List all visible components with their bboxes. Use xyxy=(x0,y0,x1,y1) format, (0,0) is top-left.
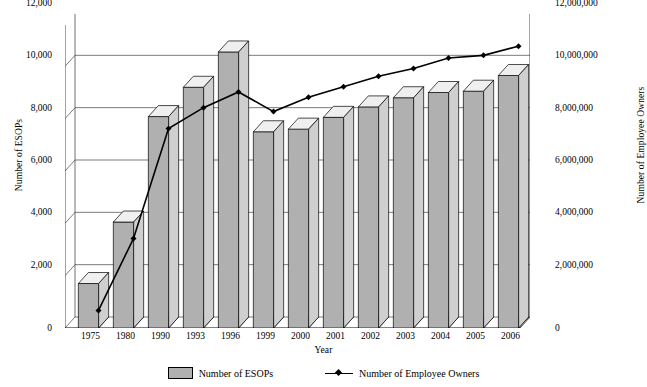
x-tick-2006: 2006 xyxy=(501,331,520,341)
x-tick-1999: 1999 xyxy=(256,331,275,341)
bar-1996 xyxy=(218,41,248,328)
bar-1999 xyxy=(253,121,283,328)
bar-2000 xyxy=(288,118,318,328)
bar-2005 xyxy=(463,80,493,328)
legend-item-line: Number of Employee Owners xyxy=(325,368,479,379)
plot-area xyxy=(65,14,530,328)
x-tick-2002: 2002 xyxy=(361,331,380,341)
legend-label-bars: Number of ESOPs xyxy=(199,368,273,379)
chart-legend: Number of ESOPs Number of Employee Owner… xyxy=(0,362,647,384)
bar-2006 xyxy=(498,64,528,328)
x-tick-1990: 1990 xyxy=(151,331,170,341)
bar-1990 xyxy=(148,106,178,328)
x-tick-2003: 2003 xyxy=(396,331,415,341)
legend-swatch-icon xyxy=(168,367,193,379)
legend-item-bars: Number of ESOPs xyxy=(168,367,273,379)
x-tick-1975: 1975 xyxy=(81,331,100,341)
y-axis-right-ticks: 02,000,0004,000,0006,000,0008,000,00010,… xyxy=(546,14,636,328)
y-tick-left-2: 4,000 xyxy=(31,207,52,217)
y-tick-left-5: 10,000 xyxy=(26,50,52,60)
bar-2001 xyxy=(323,106,353,328)
x-axis-title: Year xyxy=(0,345,647,355)
bar-2004 xyxy=(428,82,458,329)
y-tick-right-1: 2,000,000 xyxy=(555,260,593,270)
bar-1993 xyxy=(183,76,213,328)
x-tick-1993: 1993 xyxy=(186,331,205,341)
x-tick-2004: 2004 xyxy=(431,331,450,341)
y-axis-left-ticks: 02,0004,0006,0008,00010,00012,000 xyxy=(0,14,58,328)
y-tick-right-3: 6,000,000 xyxy=(555,155,593,165)
plot-svg xyxy=(65,14,530,328)
y-axis-right-title: Number of Employee Owners xyxy=(636,65,646,225)
y-tick-right-6: 12,000,000 xyxy=(555,0,598,8)
x-tick-2005: 2005 xyxy=(466,331,485,341)
legend-label-line: Number of Employee Owners xyxy=(359,368,479,379)
y-tick-left-0: 0 xyxy=(47,323,52,333)
esop-growth-chart: Number of ESOPs Number of Employee Owner… xyxy=(0,0,647,387)
y-tick-left-3: 6,000 xyxy=(31,155,52,165)
y-tick-left-4: 8,000 xyxy=(31,103,52,113)
y-tick-right-5: 10,000,000 xyxy=(555,50,598,60)
bar-2003 xyxy=(393,87,423,328)
y-tick-right-0: 0 xyxy=(555,323,560,333)
bar-2002 xyxy=(358,96,388,328)
x-tick-1996: 1996 xyxy=(221,331,240,341)
y-tick-right-4: 8,000,000 xyxy=(555,103,593,113)
y-tick-left-6: 12,000 xyxy=(26,0,52,8)
y-tick-right-2: 4,000,000 xyxy=(555,207,593,217)
legend-line-icon xyxy=(325,368,353,378)
y-tick-left-1: 2,000 xyxy=(31,260,52,270)
x-tick-1980: 1980 xyxy=(116,331,135,341)
x-tick-2001: 2001 xyxy=(326,331,345,341)
x-tick-2000: 2000 xyxy=(291,331,310,341)
